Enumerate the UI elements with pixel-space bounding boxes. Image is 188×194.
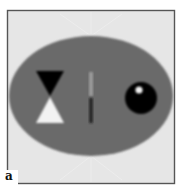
panel-label: a	[5, 170, 13, 182]
phantom-image	[0, 0, 188, 194]
bright-bar	[89, 72, 93, 96]
dark-bar	[89, 98, 93, 123]
figure-panel-a: a	[0, 0, 188, 194]
bright-spot	[135, 86, 142, 93]
dark-circle	[125, 82, 157, 114]
